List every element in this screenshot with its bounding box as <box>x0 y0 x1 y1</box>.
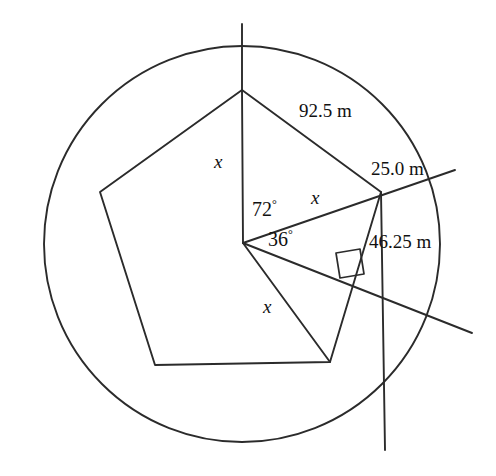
label-central-angle-36: 36° <box>268 228 293 249</box>
label-radius-x-lower: x <box>263 297 271 316</box>
label-radius-x-right: x <box>311 188 319 207</box>
label-side-top: 92.5 m <box>299 101 352 120</box>
label-radius-x-upper-left: x <box>214 152 222 171</box>
label-central-angle-72: 72° <box>252 198 277 219</box>
radius-to-top-vertex <box>242 90 243 243</box>
angle-72-value: 72 <box>252 198 272 220</box>
degree-symbol-36: ° <box>288 227 293 241</box>
label-side-lower-right: 46.25 m <box>369 232 431 251</box>
degree-symbol-72: ° <box>272 197 277 211</box>
angle-36-value: 36 <box>268 228 288 250</box>
label-side-upper-right: 25.0 m <box>371 159 424 178</box>
apothem-extended-line <box>243 243 472 333</box>
geometry-figure: 92.5 m 25.0 m 46.25 m 72° 36° x x x <box>0 0 496 476</box>
pentagon-outline <box>100 90 381 365</box>
